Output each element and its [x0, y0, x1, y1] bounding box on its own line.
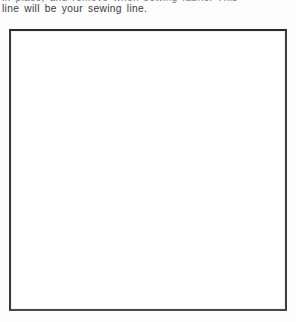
- body-text-line: line will be your sewing line.: [2, 3, 147, 15]
- scanned-page: in place, and remove when sewing fabric.…: [0, 0, 296, 322]
- blank-pattern-box-interior: [11, 31, 285, 309]
- blank-pattern-box: [9, 29, 287, 311]
